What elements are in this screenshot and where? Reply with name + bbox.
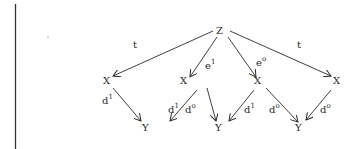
label-e1-sup: 1 — [211, 58, 215, 66]
edge-x2-y2 — [207, 88, 216, 121]
edge-z-x1 — [113, 31, 213, 76]
node-y2: Y — [214, 122, 222, 133]
label-e0: eo — [256, 55, 266, 68]
label-d0-b-sup: o — [191, 102, 195, 110]
label-d1-c-sup: 1 — [250, 102, 254, 110]
node-x1: X — [103, 75, 111, 86]
label-d1-c: d1 — [244, 102, 255, 115]
node-y1: Y — [141, 122, 149, 133]
label-d0-d-sup: o — [326, 102, 330, 110]
node-z: Z — [216, 25, 223, 36]
commutative-diagram: Z X X X X Y Y Y t e1 eo t d1 d1 do d1 do… — [0, 0, 358, 149]
edge-z-x3 — [228, 37, 256, 77]
label-d0-b: do — [185, 102, 196, 115]
label-t-right: t — [297, 39, 301, 50]
node-x2: X — [180, 75, 188, 86]
diagram-canvas: Z X X X X Y Y Y t e1 eo t d1 d1 do d1 do… — [0, 0, 358, 149]
label-d0-c: do — [269, 102, 280, 115]
label-d1-a: d1 — [102, 93, 113, 106]
label-d1-b-sup: 1 — [174, 102, 178, 110]
node-x4: X — [333, 75, 341, 86]
label-d0-c-sup: o — [275, 102, 279, 110]
label-d0-d: do — [320, 102, 331, 115]
label-e1: e1 — [205, 58, 215, 71]
label-e0-sup: o — [262, 55, 266, 63]
stray-dot — [47, 36, 48, 37]
edge-z-x4 — [230, 31, 331, 76]
label-d1-a-sup: 1 — [108, 93, 112, 101]
node-y3: Y — [294, 122, 302, 133]
node-x3: X — [254, 75, 262, 86]
edge-z-x2 — [190, 37, 217, 77]
edge-x1-y1 — [113, 88, 141, 121]
label-t-left: t — [133, 39, 137, 50]
